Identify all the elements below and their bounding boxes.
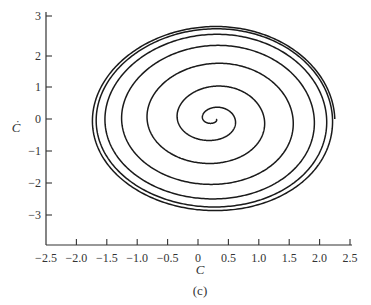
phase-plot: −2.5−2.0−1.5−1.0−0.500.51.01.52.02.53210… xyxy=(0,0,371,305)
tick-marks xyxy=(46,16,350,245)
spiral-trajectory xyxy=(92,27,334,211)
y-tick-label: 3 xyxy=(35,9,41,23)
x-tick-label: 1.5 xyxy=(282,251,297,265)
x-tick-label: −2.5 xyxy=(35,251,57,265)
y-tick-label: −1 xyxy=(28,144,41,158)
figure-caption: (c) xyxy=(193,283,207,298)
y-tick-label: 0 xyxy=(35,112,41,126)
x-tick-label: −0.5 xyxy=(157,251,179,265)
x-axis-label: C xyxy=(196,262,205,277)
y-tick-label: 2 xyxy=(35,49,41,63)
y-tick-label: 1 xyxy=(35,80,41,94)
x-tick-label: 1.0 xyxy=(251,251,266,265)
y-tick-label: −2 xyxy=(28,176,41,190)
x-tick-label: 0.5 xyxy=(221,251,236,265)
x-tick-label: 2.0 xyxy=(312,251,327,265)
x-tick-label: −1.5 xyxy=(96,251,118,265)
y-tick-label: −3 xyxy=(28,208,41,222)
x-tick-label: −2.0 xyxy=(66,251,88,265)
x-tick-label: 2.5 xyxy=(343,251,358,265)
x-tick-label: −1.0 xyxy=(126,251,148,265)
y-axis-label: Ċ xyxy=(12,120,21,135)
